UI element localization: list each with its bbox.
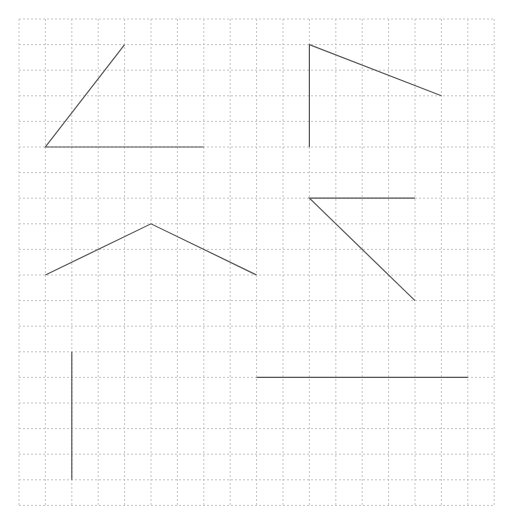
grid-diagram xyxy=(0,0,509,526)
dotted-grid xyxy=(19,19,494,505)
figures xyxy=(45,45,467,480)
